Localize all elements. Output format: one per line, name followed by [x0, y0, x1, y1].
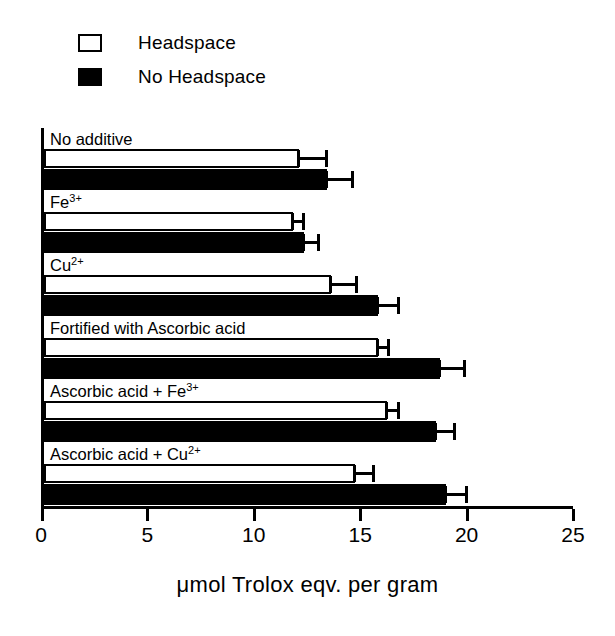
error-bar-cap-outer: [397, 402, 400, 419]
error-bar-cap-inner: [376, 297, 379, 314]
error-bar-cap-inner: [444, 486, 447, 503]
error-bar-cap-outer: [325, 150, 328, 167]
error-bar-line: [325, 178, 351, 181]
x-axis-tick: [466, 509, 469, 521]
bar-filled: [44, 295, 378, 316]
bar-group: Fortified with Ascorbic acid: [44, 319, 573, 382]
bar-open: [44, 464, 355, 483]
error-bar-line: [297, 157, 325, 160]
bar-filled: [44, 484, 446, 505]
legend-item-headspace: Headspace: [78, 26, 418, 60]
bar-group: Fe3+: [44, 193, 573, 256]
x-axis-tick-label: 15: [349, 523, 372, 547]
bar-open: [44, 275, 331, 294]
category-label: No additive: [50, 130, 133, 148]
error-bar-line: [438, 367, 464, 370]
legend-item-no-headspace: No Headspace: [78, 60, 418, 94]
error-bar-line: [329, 283, 355, 286]
legend-label-no-headspace: No Headspace: [138, 66, 266, 88]
category-label: Ascorbic acid + Cu2+: [50, 445, 201, 463]
error-bar-cap-inner: [376, 339, 379, 356]
bar-open: [44, 338, 378, 357]
x-axis-tick-label: 0: [35, 523, 47, 547]
error-bar-cap-inner: [385, 402, 388, 419]
error-bar-cap-outer: [355, 276, 358, 293]
bar-open: [44, 149, 299, 168]
bar-group: Cu2+: [44, 256, 573, 319]
x-axis-tick-label: 20: [455, 523, 478, 547]
category-label: Fe3+: [50, 193, 82, 211]
bar-filled: [44, 232, 304, 253]
legend-label-headspace: Headspace: [138, 32, 236, 54]
bar-open: [44, 401, 387, 420]
error-bar-cap-outer: [453, 423, 456, 440]
error-bar-cap-outer: [463, 360, 466, 377]
x-axis-tick: [253, 509, 256, 521]
plot-area: No additiveFe3+Cu2+Fortified with Ascorb…: [41, 128, 573, 509]
error-bar-cap-inner: [325, 171, 328, 188]
bar-filled: [44, 169, 327, 190]
error-bar-cap-inner: [438, 360, 441, 377]
x-axis-tick: [572, 509, 575, 521]
bar-filled: [44, 358, 440, 379]
error-bar-cap-outer: [387, 339, 390, 356]
category-label: Fortified with Ascorbic acid: [50, 319, 245, 337]
x-axis-title: μmol Trolox eqv. per gram: [0, 572, 615, 598]
x-axis-tick: [146, 509, 149, 521]
error-bar-cap-outer: [302, 213, 305, 230]
x-axis-tick: [41, 509, 44, 521]
open-square-icon: [78, 34, 102, 52]
category-label: Cu2+: [50, 256, 84, 274]
error-bar-cap-outer: [317, 234, 320, 251]
chart-legend: Headspace No Headspace: [78, 26, 418, 94]
error-bar-line: [376, 304, 397, 307]
error-bar-cap-outer: [397, 297, 400, 314]
x-axis-tick-labels: 0510152025: [41, 523, 573, 553]
error-bar-cap-inner: [297, 150, 300, 167]
filled-square-icon: [78, 68, 102, 86]
x-axis-tick-label: 25: [561, 523, 584, 547]
error-bar-cap-outer: [351, 171, 354, 188]
bar-group: Ascorbic acid + Fe3+: [44, 382, 573, 445]
x-axis-tick-label: 5: [142, 523, 154, 547]
error-bar-cap-outer: [372, 465, 375, 482]
error-bar-cap-inner: [353, 465, 356, 482]
plot-inner: No additiveFe3+Cu2+Fortified with Ascorb…: [44, 128, 573, 506]
bar-open: [44, 212, 293, 231]
error-bar-line: [444, 493, 465, 496]
error-bar-cap-inner: [291, 213, 294, 230]
category-label: Ascorbic acid + Fe3+: [50, 382, 199, 400]
x-axis-tick: [359, 509, 362, 521]
bar-chart: Headspace No Headspace No additiveFe3+Cu…: [0, 0, 615, 636]
error-bar-cap-outer: [465, 486, 468, 503]
error-bar-cap-inner: [302, 234, 305, 251]
bar-group: No additive: [44, 130, 573, 193]
bar-filled: [44, 421, 436, 442]
error-bar-cap-inner: [434, 423, 437, 440]
bar-group: Ascorbic acid + Cu2+: [44, 445, 573, 508]
x-axis-ticks: [41, 509, 573, 523]
error-bar-cap-inner: [329, 276, 332, 293]
x-axis-tick-label: 10: [242, 523, 265, 547]
